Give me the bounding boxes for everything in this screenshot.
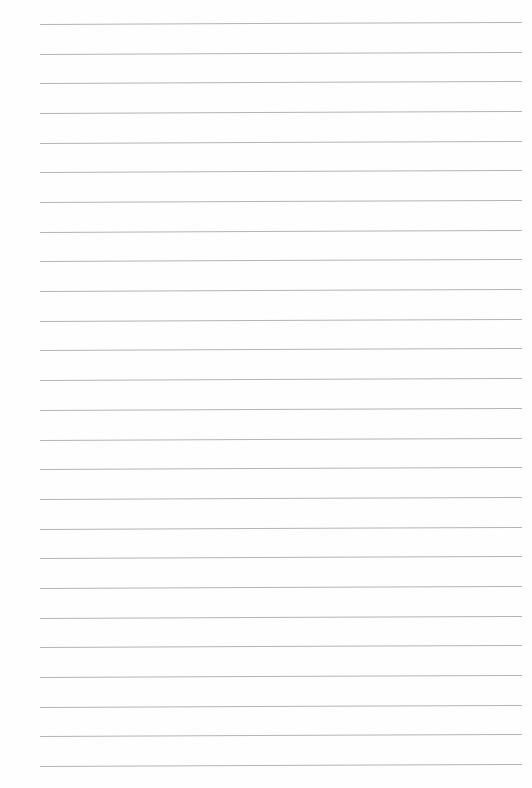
ruled-line (40, 527, 522, 530)
ruled-line (40, 52, 522, 55)
ruled-line (40, 438, 522, 441)
ruled-line (40, 319, 522, 322)
ruled-line (40, 111, 522, 114)
ruled-line (40, 230, 522, 233)
ruled-line (40, 22, 522, 25)
lined-paper-page (0, 0, 532, 788)
ruled-line (40, 764, 522, 767)
ruled-line (40, 467, 522, 470)
ruled-line (40, 200, 522, 203)
ruled-line (40, 616, 522, 619)
ruled-line (40, 705, 522, 708)
ruled-line (40, 378, 522, 381)
ruled-line (40, 141, 522, 144)
ruled-line (40, 497, 522, 500)
ruled-line (40, 81, 522, 84)
ruled-line (40, 645, 522, 648)
ruled-line (40, 259, 522, 262)
ruled-line (40, 170, 522, 173)
ruled-line (40, 408, 522, 411)
ruled-line (40, 734, 522, 737)
ruled-line (40, 675, 522, 678)
ruled-line (40, 556, 522, 559)
ruled-line (40, 586, 522, 589)
ruled-line (40, 348, 522, 351)
ruled-line (40, 289, 522, 292)
